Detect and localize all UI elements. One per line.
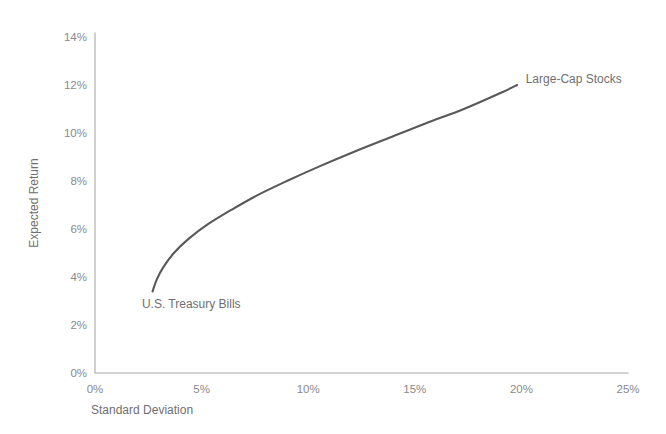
x-tick-label: 0% — [87, 383, 104, 395]
efficient-frontier-chart: 14% 12% 10% 8% 6% 4% 2% 0% 0% 5% 10% 15%… — [0, 0, 666, 434]
x-tick-label: 10% — [297, 383, 320, 395]
chart-container: 14% 12% 10% 8% 6% 4% 2% 0% 0% 5% 10% 15%… — [0, 0, 666, 434]
x-tick-label: 15% — [403, 383, 426, 395]
efficient-frontier-curve — [153, 85, 518, 291]
y-tick-label: 14% — [64, 31, 87, 43]
y-tick-label: 2% — [70, 319, 87, 331]
annotation-treasury-bills: U.S. Treasury Bills — [142, 297, 241, 311]
y-axis-title: Expected Return — [27, 158, 41, 247]
x-tick-label: 20% — [510, 383, 533, 395]
x-axis-title: Standard Deviation — [91, 403, 193, 417]
y-tick-label: 8% — [70, 175, 87, 187]
x-tick-label: 5% — [193, 383, 210, 395]
y-tick-label: 0% — [70, 367, 87, 379]
annotation-large-cap-stocks: Large-Cap Stocks — [526, 72, 622, 86]
y-tick-label: 6% — [70, 223, 87, 235]
y-tick-label: 4% — [70, 271, 87, 283]
y-tick-label: 10% — [64, 127, 87, 139]
y-tick-label: 12% — [64, 79, 87, 91]
x-tick-label: 25% — [616, 383, 639, 395]
